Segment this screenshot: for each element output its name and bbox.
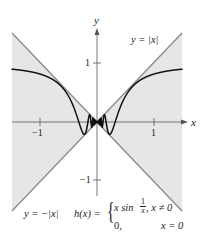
case2-condition: x = 0 xyxy=(161,221,183,232)
y-tick-label-neg1: −1 xyxy=(80,175,91,185)
y-axis-label: y xyxy=(94,15,99,26)
x-tick-label-pos1: 1 xyxy=(151,128,156,138)
h-definition: h(x) = { x sin 1 x , x ≠ 0 0, x = 0 xyxy=(74,200,199,238)
case2-expr: 0, xyxy=(114,221,122,232)
y-axis-arrow-icon xyxy=(95,28,100,35)
x-tick-label-neg1: −1 xyxy=(32,128,43,138)
y-tick-label-pos1: 1 xyxy=(85,58,90,68)
case1-expr: x sin xyxy=(114,203,134,214)
case1-condition: , x ≠ 0 xyxy=(146,203,172,214)
h-name: h(x) = xyxy=(74,209,101,220)
x-axis-arrow-icon xyxy=(181,120,188,125)
upper-bound-label: y = |x| xyxy=(131,35,158,46)
x-axis-label: x xyxy=(191,117,196,128)
lower-bound-label: y = −|x| xyxy=(24,209,59,220)
